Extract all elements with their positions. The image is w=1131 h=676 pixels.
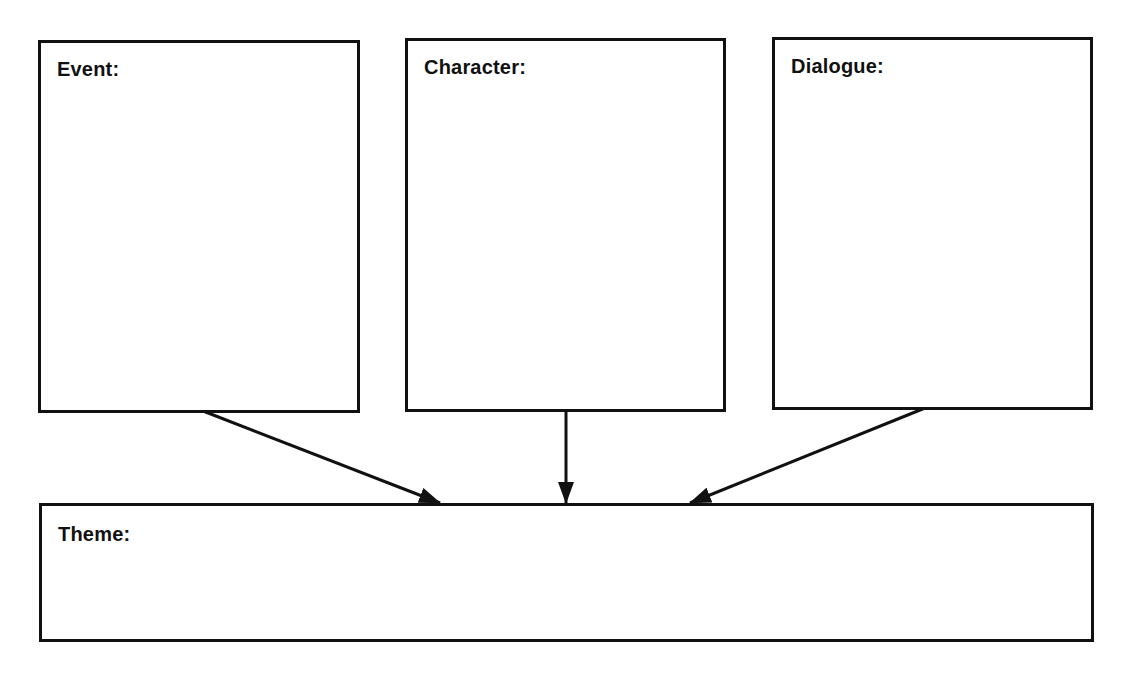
dialogue-label: Dialogue: — [791, 55, 884, 78]
theme-label: Theme: — [58, 523, 130, 546]
event-label: Event: — [57, 58, 119, 81]
dialogue-box[interactable]: Dialogue: — [772, 37, 1093, 410]
event-box[interactable]: Event: — [38, 40, 360, 413]
theme-box[interactable]: Theme: — [39, 503, 1094, 642]
character-box[interactable]: Character: — [405, 38, 726, 412]
arrow-event-to-theme — [203, 411, 440, 503]
arrow-dialogue-to-theme — [690, 408, 925, 503]
character-label: Character: — [424, 56, 526, 79]
